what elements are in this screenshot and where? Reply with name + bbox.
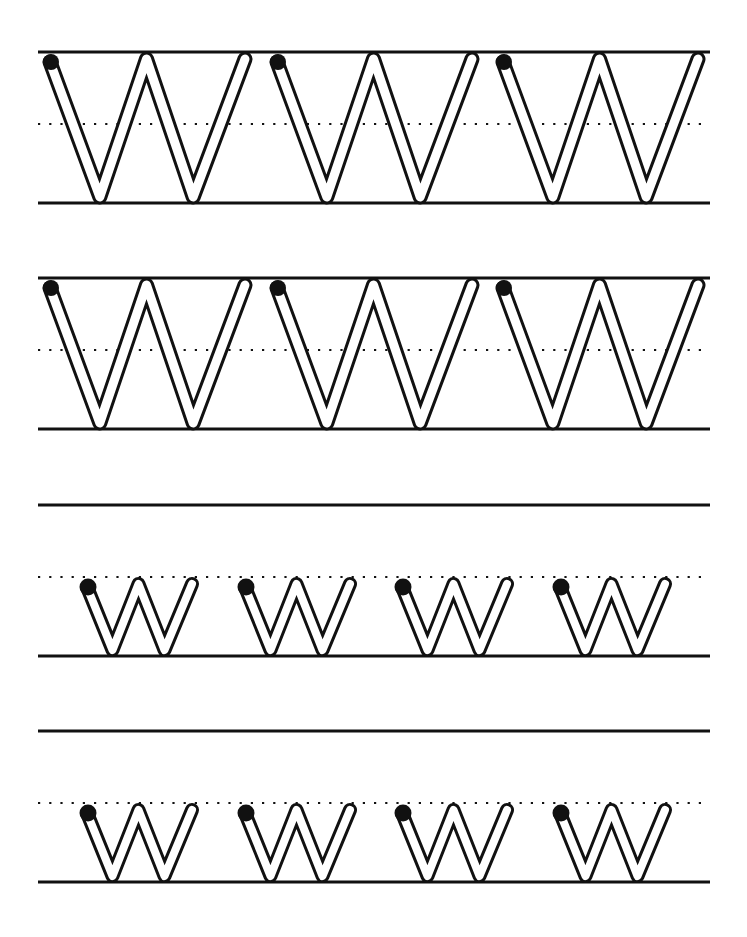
- start-point-dot-icon: [238, 805, 255, 822]
- start-point-dot-icon: [553, 805, 570, 822]
- start-point-dot-icon: [80, 579, 97, 596]
- start-point-dot-icon: [395, 579, 412, 596]
- start-point-dot-icon: [553, 579, 570, 596]
- start-point-dot-icon: [270, 54, 286, 70]
- start-point-dot-icon: [496, 54, 512, 70]
- start-point-dot-icon: [496, 280, 512, 296]
- tracing-worksheet: [0, 0, 747, 937]
- start-point-dot-icon: [80, 805, 97, 822]
- start-point-dot-icon: [395, 805, 412, 822]
- start-point-dot-icon: [43, 280, 59, 296]
- start-point-dot-icon: [43, 54, 59, 70]
- start-point-dot-icon: [238, 579, 255, 596]
- start-point-dot-icon: [270, 280, 286, 296]
